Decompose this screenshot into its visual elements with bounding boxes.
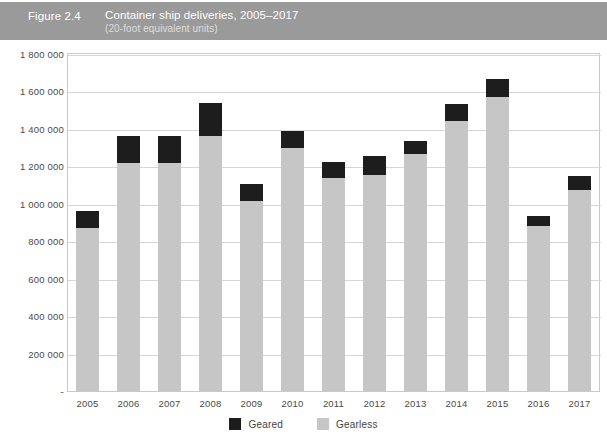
bar-segment-gearless	[568, 190, 591, 391]
bar-group-2008	[199, 103, 222, 392]
bar-group-2013	[404, 141, 427, 391]
legend-label: Geared	[248, 419, 283, 430]
bar-group-2015	[486, 79, 509, 392]
bar-segment-geared	[281, 131, 304, 148]
bar-segment-geared	[199, 103, 222, 137]
bar-group-2011	[322, 162, 345, 391]
legend-label: Gearless	[336, 419, 378, 430]
bar-segment-geared	[568, 176, 591, 190]
legend-swatch-gearless	[317, 418, 329, 430]
bar-group-2016	[527, 216, 550, 391]
x-axis-tick-label-2015: 2015	[476, 398, 520, 409]
bar-segment-geared	[322, 162, 345, 178]
bar-segment-gearless	[199, 136, 222, 391]
bar-segment-gearless	[158, 163, 181, 391]
bar-group-2010	[281, 131, 304, 391]
bar-group-2014	[445, 104, 468, 391]
bar-group-2005	[76, 211, 99, 391]
x-axis-tick-label-2017: 2017	[558, 398, 602, 409]
x-axis-tick-label-2016: 2016	[517, 398, 561, 409]
x-axis-tick-label-2011: 2011	[312, 398, 356, 409]
bar-group-2012	[363, 156, 386, 391]
chart-legend: GearedGearless	[0, 414, 607, 434]
bar-segment-gearless	[117, 163, 140, 391]
bar-segment-gearless	[322, 178, 345, 391]
bar-series-layer	[0, 0, 607, 441]
bar-group-2006	[117, 136, 140, 391]
bar-group-2007	[158, 136, 181, 391]
x-axis-tick-label-2009: 2009	[230, 398, 274, 409]
bar-segment-gearless	[363, 175, 386, 391]
bar-segment-geared	[158, 136, 181, 163]
x-axis-tick-label-2007: 2007	[148, 398, 192, 409]
bar-segment-geared	[76, 211, 99, 228]
bar-segment-geared	[486, 79, 509, 98]
legend-item-gearless[interactable]: Gearless	[317, 418, 378, 430]
figure-container: Figure 2.4 Container ship deliveries, 20…	[0, 0, 607, 441]
x-axis-tick-label-2005: 2005	[66, 398, 110, 409]
x-axis-tick-label-2008: 2008	[189, 398, 233, 409]
bar-segment-gearless	[445, 121, 468, 391]
legend-swatch-geared	[229, 418, 241, 430]
bar-segment-gearless	[527, 226, 550, 391]
legend-item-geared[interactable]: Geared	[229, 418, 283, 430]
bar-group-2009	[240, 184, 263, 391]
x-axis-tick-label-2014: 2014	[435, 398, 479, 409]
x-axis-tick-label-2013: 2013	[394, 398, 438, 409]
bar-segment-gearless	[486, 97, 509, 391]
bar-segment-geared	[404, 141, 427, 154]
x-axis-tick-label-2010: 2010	[271, 398, 315, 409]
bar-segment-gearless	[404, 154, 427, 391]
bar-segment-geared	[363, 156, 386, 175]
bar-segment-geared	[240, 184, 263, 201]
bar-segment-geared	[527, 216, 550, 226]
x-axis-tick-label-2012: 2012	[353, 398, 397, 409]
x-axis-tick-label-2006: 2006	[107, 398, 151, 409]
bar-segment-gearless	[76, 228, 99, 391]
bar-group-2017	[568, 176, 591, 391]
bar-segment-gearless	[240, 201, 263, 391]
bar-segment-gearless	[281, 148, 304, 391]
bar-segment-geared	[117, 136, 140, 163]
bar-segment-geared	[445, 104, 468, 121]
